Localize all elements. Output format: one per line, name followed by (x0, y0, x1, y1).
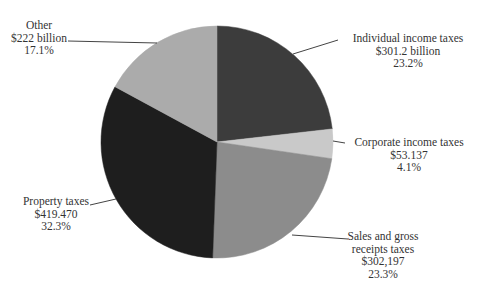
pie-slice-individual-income-taxes (217, 26, 332, 142)
label-property: Property taxes $419.470 32.3% (20, 195, 92, 233)
label-corporate-value: $53.137 (344, 149, 474, 162)
label-individual-percent: 23.2% (338, 57, 478, 70)
label-property-value: $419.470 (20, 208, 92, 221)
pie-slices (101, 26, 333, 258)
label-other-percent: 17.1% (6, 44, 72, 57)
label-other-value: $222 billion (6, 32, 72, 45)
label-property-name: Property taxes (20, 195, 92, 208)
leader-line-sales (292, 235, 348, 239)
label-individual: Individual income taxes $301.2 billion 2… (338, 32, 478, 70)
label-other-name: Other (6, 19, 72, 32)
label-sales-name-1: Sales and gross (345, 230, 421, 243)
pie-slice-sales-and-gross-receipts-taxes (213, 142, 332, 258)
label-sales-percent: 23.3% (345, 268, 421, 281)
leader-line-individual (293, 40, 338, 54)
label-sales-value: $302,197 (345, 255, 421, 268)
label-corporate-percent: 4.1% (344, 161, 474, 174)
leader-line-property (90, 199, 116, 205)
label-sales: Sales and gross receipts taxes $302,197 … (345, 230, 421, 280)
label-individual-name: Individual income taxes (338, 32, 478, 45)
label-individual-value: $301.2 billion (338, 45, 478, 58)
label-corporate: Corporate income taxes $53.137 4.1% (344, 136, 474, 174)
label-sales-name-2: receipts taxes (345, 243, 421, 256)
label-property-percent: 32.3% (20, 220, 92, 233)
label-corporate-name: Corporate income taxes (344, 136, 474, 149)
label-other: Other $222 billion 17.1% (6, 19, 72, 57)
leader-line-other (68, 41, 157, 43)
